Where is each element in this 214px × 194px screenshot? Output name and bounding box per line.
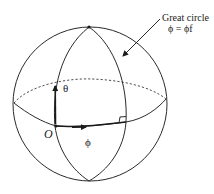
- north-pole-dot: [87, 25, 90, 28]
- equator-path-segment: [56, 122, 126, 127]
- equator-back-dashed: [14, 79, 166, 103]
- great-circle-meridian: [89, 27, 126, 181]
- left-meridian: [54, 27, 89, 181]
- origin-label: O: [44, 128, 53, 140]
- origin-point-dot: [54, 124, 57, 127]
- great-circle-equation: ϕ = ϕf: [168, 24, 193, 34]
- phi-label: ϕ: [85, 137, 91, 148]
- great-circle-label: Great circle: [162, 13, 209, 23]
- theta-label: θ: [63, 83, 68, 94]
- equator-front: [14, 99, 166, 127]
- sphere-outline: [13, 27, 167, 181]
